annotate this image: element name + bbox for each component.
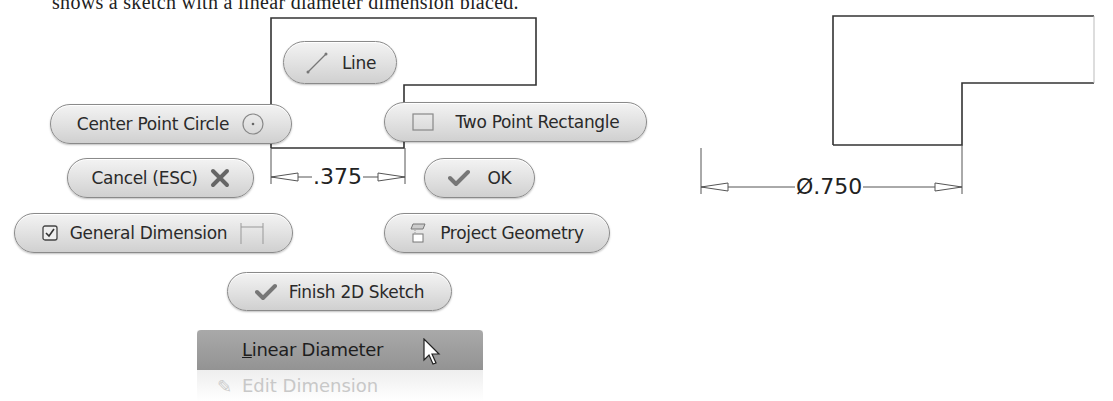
mouse-cursor-icon bbox=[423, 338, 443, 370]
project-geometry-label: Project Geometry bbox=[440, 223, 584, 243]
center-point-circle-button[interactable]: Center Point Circle bbox=[50, 104, 292, 144]
ok-button[interactable]: OK bbox=[424, 158, 535, 198]
cancel-button[interactable]: Cancel (ESC) bbox=[67, 158, 254, 198]
general-dimension-button[interactable]: General Dimension bbox=[14, 213, 293, 253]
menu-item-linear-diameter[interactable]: Linear Diameter bbox=[197, 330, 483, 370]
checkmark-icon bbox=[448, 169, 470, 187]
menu-item-label: Edit Dimension bbox=[242, 375, 378, 396]
cancel-label: Cancel (ESC) bbox=[91, 168, 197, 188]
x-icon bbox=[210, 168, 230, 188]
menu-item-edit-dimension[interactable]: ✎ Edit Dimension bbox=[197, 370, 483, 401]
finish-2d-sketch-button[interactable]: Finish 2D Sketch bbox=[227, 272, 452, 311]
checkmark-icon bbox=[255, 283, 277, 301]
finish-2d-sketch-label: Finish 2D Sketch bbox=[289, 282, 425, 302]
project-geometry-icon bbox=[410, 222, 428, 244]
line-icon bbox=[304, 50, 330, 76]
context-menu: Linear Diameter ✎ Edit Dimension bbox=[197, 330, 483, 401]
line-button[interactable]: Line bbox=[283, 41, 397, 84]
rectangle-icon bbox=[412, 113, 434, 131]
line-label: Line bbox=[342, 53, 376, 73]
two-point-rectangle-button[interactable]: Two Point Rectangle bbox=[384, 102, 647, 142]
project-geometry-button[interactable]: Project Geometry bbox=[384, 213, 610, 253]
dimension-value-750[interactable]: Ø.750 bbox=[795, 175, 863, 199]
center-point-circle-label: Center Point Circle bbox=[77, 114, 229, 134]
general-dimension-label: General Dimension bbox=[70, 223, 228, 243]
two-point-rectangle-label: Two Point Rectangle bbox=[456, 112, 620, 132]
circle-icon bbox=[241, 112, 265, 136]
menu-item-label: Linear Diameter bbox=[242, 339, 383, 360]
checkbox-checked-icon[interactable] bbox=[42, 225, 58, 241]
sketch-canvas bbox=[0, 0, 1113, 401]
dimension-value-375[interactable]: .375 bbox=[312, 165, 363, 189]
pencil-icon: ✎ bbox=[217, 376, 232, 397]
ok-label: OK bbox=[488, 168, 512, 188]
dimension-icon bbox=[239, 220, 265, 246]
right-sketch-profile bbox=[833, 16, 1094, 145]
